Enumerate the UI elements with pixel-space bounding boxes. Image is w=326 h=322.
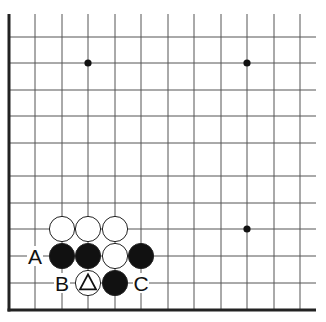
star-point-icon (243, 225, 250, 232)
star-point-icon (243, 59, 250, 66)
black-stone-icon (128, 243, 153, 268)
white-stone-icon (102, 243, 127, 268)
white-stone-icon (75, 216, 100, 241)
white-stone-icon (102, 216, 127, 241)
black-stone-icon (75, 243, 100, 268)
black-stone-icon (49, 243, 74, 268)
board-grid (8, 14, 317, 312)
point-label-c: C (133, 272, 148, 295)
go-board: ABC (0, 0, 326, 322)
point-label-b: B (55, 272, 69, 295)
point-label-a: A (28, 245, 42, 268)
star-point-icon (84, 59, 91, 66)
black-stone-icon (102, 270, 127, 295)
white-stone-icon (49, 216, 74, 241)
